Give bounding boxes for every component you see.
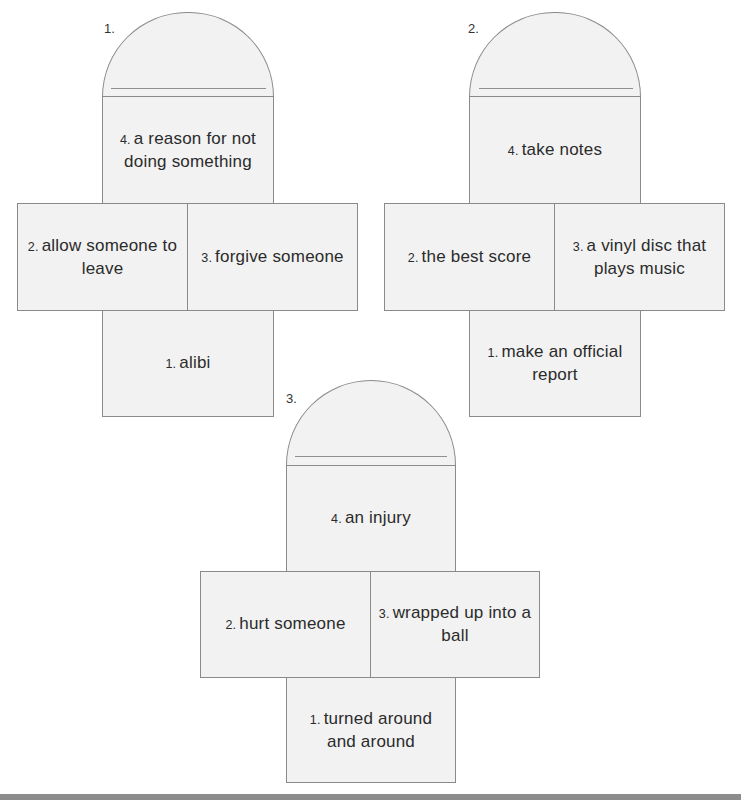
footer-bar [0,794,741,800]
left-panel: 2.allow someone to leave [17,203,188,311]
top-panel-text: take notes [522,140,602,159]
right-panel: 3.wrapped up into a ball [370,571,540,678]
left-panel: 2.hurt someone [200,571,371,678]
right-panel: 3.forgive someone [187,203,358,311]
dome-flap [286,380,456,466]
top-panel-text: an injury [345,508,411,527]
dome-fold-line [479,88,633,89]
right-panel-text: forgive someone [215,247,344,266]
dome-flap [102,12,274,97]
top-panel: 4.take notes [469,96,641,204]
top-panel: 4.an injury [286,465,456,572]
left-panel-text: the best score [422,247,532,266]
left-panel-text: allow someone to leave [42,236,178,278]
right-panel: 3.a vinyl disc that plays music [554,203,725,311]
bottom-panel: 1.alibi [102,310,274,417]
bottom-panel-text: make an official report [501,342,622,384]
figure-label: 3. [286,391,297,406]
figure-label: 1. [104,21,115,36]
figure-label: 2. [468,21,479,36]
right-panel-text: wrapped up into a ball [393,603,532,645]
top-panel-text: a reason for not doing something [124,129,256,171]
bottom-panel: 1.make an official report [469,310,641,417]
top-panel: 4.a reason for not doing something [102,96,274,204]
right-panel-text: a vinyl disc that plays music [587,236,707,278]
dome-flap [469,12,641,97]
bottom-panel-text: alibi [179,353,210,372]
dome-fold-line [111,88,266,89]
bottom-panel-text: turned around and around [324,709,432,751]
left-panel-text: hurt someone [239,614,345,633]
dome-fold-line [295,456,447,457]
bottom-panel: 1.turned around and around [286,677,456,783]
left-panel: 2.the best score [384,203,555,311]
